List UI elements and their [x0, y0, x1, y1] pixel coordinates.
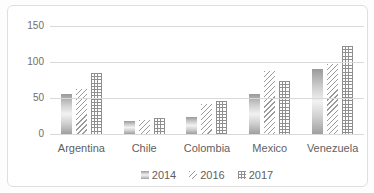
bar-group-mexico	[238, 26, 301, 134]
bar-2014-colombia[interactable]	[186, 117, 197, 134]
bar-2017-venezuela[interactable]	[342, 46, 353, 134]
bar-2014-chile[interactable]	[124, 121, 135, 134]
legend-label-2017: 2017	[249, 169, 273, 181]
bar-group-argentina	[50, 26, 113, 134]
bar-group-colombia	[176, 26, 239, 134]
x-axis-label-mexico: Mexico	[238, 142, 301, 154]
bar-groups	[50, 26, 364, 134]
gridline-100	[50, 62, 364, 63]
y-tick-label-0: 0	[8, 128, 44, 140]
bar-2016-mexico[interactable]	[264, 71, 275, 134]
x-axis-label-venezuela: Venezuela	[301, 142, 364, 154]
legend-item-2014[interactable]: 2014	[141, 169, 176, 181]
bar-2017-mexico[interactable]	[279, 81, 290, 134]
legend: 201420162017	[50, 169, 364, 181]
gridline-50	[50, 98, 364, 99]
gridline-150	[50, 26, 364, 27]
bar-2014-argentina[interactable]	[61, 94, 72, 134]
legend-marker-2016-icon	[189, 171, 197, 179]
legend-label-2016: 2016	[200, 169, 224, 181]
x-axis-label-colombia: Colombia	[176, 142, 239, 154]
bar-2017-argentina[interactable]	[91, 73, 102, 134]
legend-item-2017[interactable]: 2017	[238, 169, 273, 181]
bar-2017-colombia[interactable]	[216, 101, 227, 134]
x-axis-label-chile: Chile	[113, 142, 176, 154]
plot-area	[50, 26, 364, 134]
bar-group-venezuela	[301, 26, 364, 134]
chart-frame[interactable]: 050100150 ArgentinaChileColombiaMexicoVe…	[7, 5, 368, 187]
bar-2014-venezuela[interactable]	[312, 69, 323, 134]
y-tick-label-150: 150	[8, 20, 44, 32]
y-axis: 050100150	[8, 26, 44, 134]
y-tick-label-50: 50	[8, 92, 44, 104]
x-axis-label-argentina: Argentina	[50, 142, 113, 154]
chart-screenshot: 050100150 ArgentinaChileColombiaMexicoVe…	[0, 0, 374, 193]
legend-marker-2017-icon	[238, 171, 246, 179]
legend-item-2016[interactable]: 2016	[189, 169, 224, 181]
legend-marker-2014-icon	[141, 171, 149, 179]
bar-2014-mexico[interactable]	[249, 94, 260, 134]
bar-2016-argentina[interactable]	[76, 89, 87, 134]
bar-2016-chile[interactable]	[139, 120, 150, 134]
legend-label-2014: 2014	[152, 169, 176, 181]
bar-2017-chile[interactable]	[154, 118, 165, 134]
y-tick-label-100: 100	[8, 56, 44, 68]
bar-2016-venezuela[interactable]	[327, 64, 338, 134]
x-axis: ArgentinaChileColombiaMexicoVenezuela	[50, 142, 364, 154]
bar-2016-colombia[interactable]	[201, 104, 212, 134]
gridline-0	[50, 134, 364, 135]
bar-group-chile	[113, 26, 176, 134]
